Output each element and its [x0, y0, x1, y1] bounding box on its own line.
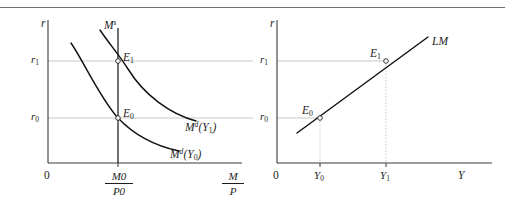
- origin-label-left: 0: [44, 170, 50, 182]
- lm-curve-line: [297, 37, 428, 133]
- x-tick-label-y1: Y1: [380, 170, 390, 181]
- y-axis-label-left: r: [41, 18, 45, 30]
- money-supply-curve-label: Ms: [104, 20, 117, 32]
- equilibrium-label-e0-left: E0: [123, 108, 134, 120]
- x-tick-label-m0-over-p0: M0 P0: [105, 170, 133, 198]
- figure-vector-layer: [0, 0, 505, 217]
- axis-fraction-bar: [222, 183, 244, 184]
- equilibrium-label-e0-right: E0: [302, 105, 313, 117]
- x-tick-label-y0: Y0: [314, 170, 324, 181]
- figure-canvas: r r1 r0 0 Ms E1 E0 Md(Y1) Md(Y0) M0 P0 M…: [0, 0, 505, 217]
- equilibrium-label-e1-right: E1: [370, 48, 381, 60]
- y-axis-label-right: r: [270, 18, 274, 30]
- y-tick-label-r1-right: r1: [260, 54, 268, 65]
- axis-fraction-numerator: M: [222, 170, 244, 182]
- equilibrium-point-e0-left: [116, 116, 121, 121]
- equilibrium-point-e1-left: [116, 59, 121, 64]
- axis-fraction-denominator: P: [222, 185, 244, 197]
- x-axis-label-right: Y: [458, 170, 464, 182]
- equilibrium-point-e0-right: [318, 116, 323, 121]
- y-tick-label-r0-left: r0: [31, 111, 39, 122]
- equilibrium-point-e1-right: [384, 59, 389, 64]
- money-demand-y1-label: Md(Y1): [185, 122, 216, 134]
- money-demand-y1-curve: [100, 30, 196, 121]
- x-axis-label-m-over-p: M P: [222, 170, 244, 198]
- fraction-denominator: P0: [105, 185, 133, 197]
- equilibrium-label-e1-left: E1: [123, 52, 134, 64]
- fraction-bar: [105, 183, 133, 184]
- lm-curve-panel-graphics: [277, 20, 492, 167]
- fraction-numerator: M0: [105, 170, 133, 182]
- y-tick-label-r0-right: r0: [260, 111, 268, 122]
- money-market-panel-graphics: [48, 20, 253, 167]
- origin-label-right: 0: [273, 170, 279, 182]
- money-demand-y0-label: Md(Y0): [170, 149, 201, 161]
- lm-curve-label: LM: [432, 36, 448, 48]
- y-tick-label-r1-left: r1: [31, 54, 39, 65]
